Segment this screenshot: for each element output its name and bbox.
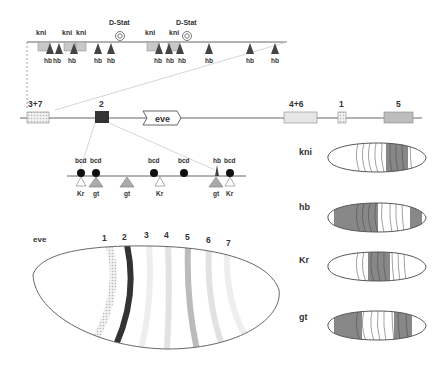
kr-label: Kr — [156, 190, 164, 197]
kni-label: kni — [169, 29, 179, 36]
gt-embryo-label: gt — [299, 312, 308, 322]
enhancer-4-6 — [284, 112, 317, 123]
top-enhancer: kni kni kni kni kni D-Stat D-Stat hb hb … — [27, 19, 287, 110]
kni-label: kni — [62, 29, 72, 36]
gt-label: gt — [93, 190, 100, 198]
hb-label: hb — [107, 57, 115, 64]
kni-embryo — [328, 143, 426, 173]
hb-label: hb — [271, 57, 279, 64]
dstat-label: D-Stat — [109, 19, 130, 26]
eve-regulation-diagram: kni kni kni kni kni D-Stat D-Stat hb hb … — [0, 0, 442, 370]
kr-label: Kr — [226, 190, 234, 197]
gt-label: gt — [124, 190, 131, 198]
dstat-label: D-Stat — [176, 19, 197, 26]
kni-label: kni — [145, 29, 155, 36]
bcd-label: bcd — [75, 157, 87, 164]
hb-label: hb — [246, 57, 254, 64]
hb-label: hb — [94, 57, 102, 64]
bcd-label: bcd — [90, 157, 102, 164]
stripe-label: 4 — [164, 230, 169, 240]
eve-embryo: eve 1 2 3 4 5 6 7 — [33, 230, 279, 350]
stripe2-enhancer: bcd bcd bcd bcd hb bcd Kr gt gt Kr gt Kr — [67, 157, 246, 198]
bcd-label: bcd — [148, 157, 160, 164]
hb-embryo — [328, 203, 426, 233]
enhancer-2 — [95, 111, 109, 123]
stripe-label: 7 — [226, 238, 231, 248]
hb-label: hb — [53, 57, 61, 64]
hb-label: hb — [44, 57, 52, 64]
kr-embryo — [328, 252, 426, 282]
kni-label: kni — [76, 29, 86, 36]
stripe-label: 3 — [144, 230, 149, 240]
eve-gene-label: eve — [155, 114, 170, 124]
eve-embryo-label: eve — [33, 235, 47, 244]
gt-embryo — [328, 311, 426, 341]
stripe-label: 2 — [122, 232, 127, 242]
enhancer-label: 4+6 — [289, 99, 304, 109]
hb-label: hb — [154, 57, 162, 64]
enhancer-label: 2 — [99, 99, 104, 109]
enhancer-3-7 — [27, 112, 49, 123]
enhancer-label: 1 — [339, 99, 344, 109]
bcd-label: bcd — [224, 157, 236, 164]
gap-embryos: kni hb Kr gt — [299, 143, 426, 341]
kni-embryo-label: kni — [299, 147, 312, 157]
hb-label: hb — [68, 57, 76, 64]
enhancer-5 — [384, 112, 413, 123]
kr-embryo-label: Kr — [299, 255, 309, 265]
bcd-label: bcd — [178, 157, 190, 164]
kr-label: Kr — [77, 190, 85, 197]
gt-label: gt — [213, 190, 220, 198]
stripe-label: 6 — [206, 235, 211, 245]
enhancer-label: 3+7 — [28, 99, 43, 109]
stripe-label: 1 — [102, 233, 107, 243]
hb-embryo-label: hb — [299, 202, 310, 212]
stripe-label: 5 — [185, 232, 190, 242]
hb-label: hb — [166, 57, 174, 64]
enhancer-label: 5 — [396, 99, 401, 109]
hb-label: hb — [213, 157, 221, 164]
hb-label: hb — [205, 57, 213, 64]
hb-label: hb — [178, 57, 186, 64]
enhancer-1 — [338, 112, 346, 123]
kni-label: kni — [36, 29, 46, 36]
